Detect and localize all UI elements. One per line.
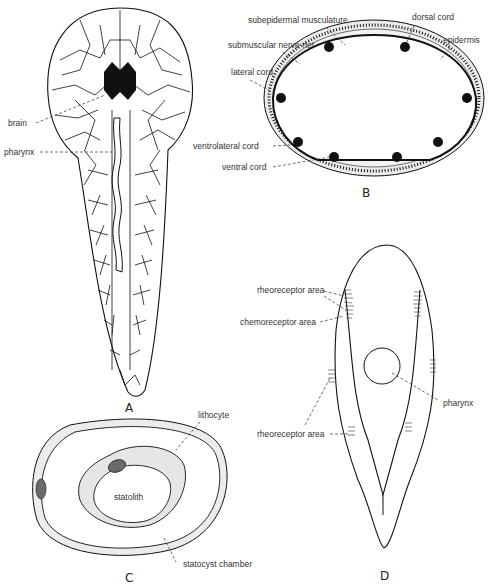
panel-c-drawing	[33, 419, 227, 555]
label-ventrolateral-cord: ventrolateral cord	[193, 141, 259, 151]
label-rheoreceptor-area-bottom: rheoreceptor area	[257, 429, 325, 439]
label-brain: brain	[8, 118, 27, 128]
rheoreceptor-top-leader-line	[324, 291, 344, 296]
chemoreceptor-leader-line	[320, 316, 344, 322]
panel-label-c: C	[125, 571, 133, 584]
label-dorsal-cord: dorsal cord	[412, 12, 454, 22]
label-chemoreceptor-area: chemoreceptor area	[240, 317, 316, 327]
figure-canvas: brain pharynx A subepidermal musculature…	[0, 0, 491, 584]
rheoreceptor-top-leader-line-2	[324, 296, 346, 310]
label-lithocyte: lithocyte	[198, 410, 229, 420]
panel-d-drawing	[328, 245, 436, 548]
label-pharynx-a: pharynx	[4, 147, 35, 157]
rheoreceptor-bottom-leader-line-2	[305, 378, 330, 425]
label-submuscular-nerve-net: submuscular nerve net	[228, 40, 315, 50]
panel-label-d: D	[380, 569, 389, 583]
panel-label-b: B	[362, 186, 370, 200]
label-statocyst-chamber: statocyst chamber	[183, 559, 252, 569]
label-subepidermal-musculature: subepidermal musculature	[248, 15, 348, 25]
brain-leader-line	[36, 95, 105, 123]
label-rheoreceptor-area-top: rheoreceptor area	[257, 285, 325, 295]
label-lateral-cord: lateral cord	[231, 67, 273, 77]
label-epidermis: epidermis	[443, 35, 480, 45]
label-ventral-cord: ventral cord	[222, 162, 267, 172]
panel-a-drawing	[48, 8, 193, 396]
pharynx-leader-line-d	[392, 373, 438, 400]
label-pharynx-d: pharynx	[443, 398, 474, 408]
panel-label-a: A	[125, 401, 134, 415]
label-statolith: statolith	[114, 492, 144, 502]
